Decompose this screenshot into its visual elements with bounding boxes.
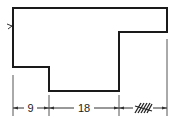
dimension-label-9: 9 (27, 102, 33, 114)
profile-diagram: 9 18 (0, 0, 177, 127)
dimension-label-18: 18 (78, 102, 90, 114)
profile-outline (13, 8, 167, 91)
section-marker-icon (7, 24, 12, 29)
hatched-dimension-icon (135, 103, 152, 113)
